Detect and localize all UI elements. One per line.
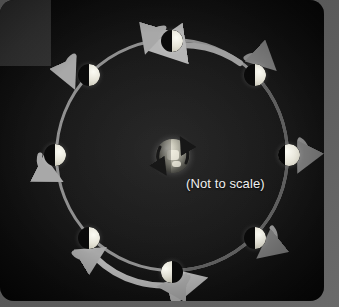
moon-dark-hemisphere	[278, 144, 285, 166]
moon-position-left	[44, 144, 66, 166]
moon-position-bottom-left	[78, 227, 100, 249]
diagram-panel: (Not to scale)	[0, 0, 324, 301]
moon-position-right	[278, 144, 300, 166]
corner-overlay-block	[0, 0, 51, 66]
earth-rotation-arrow	[185, 145, 188, 163]
not-to-scale-caption: (Not to scale)	[186, 176, 265, 191]
earth-rotation-arrow	[158, 147, 161, 167]
moon-position-bottom	[161, 261, 183, 283]
moon-position-bottom-right	[244, 227, 266, 249]
moon-position-top	[161, 30, 183, 52]
moon-position-top-right	[244, 64, 266, 86]
moon-phase-diagram-image: (Not to scale)	[0, 0, 339, 307]
moon-position-top-left	[78, 64, 100, 86]
